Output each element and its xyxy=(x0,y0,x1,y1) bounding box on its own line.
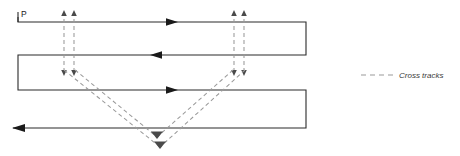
cross-track-diagonal-left-outer xyxy=(64,70,160,147)
main-track-path xyxy=(13,17,306,128)
main-track-group xyxy=(13,17,306,128)
legend-cross-track-label: Cross tracks xyxy=(399,71,443,80)
start-point-label: P xyxy=(21,9,27,19)
direction-arrow-right-top xyxy=(166,18,178,26)
cross-arrow-vertex-upper xyxy=(151,132,163,140)
legend: Cross tracks xyxy=(361,71,443,80)
cross-arrow-up-left-a xyxy=(61,10,67,16)
main-track-direction-arrows xyxy=(12,18,178,132)
cross-arrow-up-right-a xyxy=(231,10,237,16)
cross-tracks-vertical-right xyxy=(231,10,247,76)
cross-tracks-vertical-left xyxy=(61,10,77,76)
cross-arrow-up-right-b xyxy=(241,10,247,16)
cross-track-diagonal-right-outer xyxy=(160,70,245,147)
direction-arrow-right-third xyxy=(166,86,178,94)
direction-arrow-left-second xyxy=(150,51,162,59)
diagram-canvas: P xyxy=(0,0,460,156)
cross-arrow-vertex-lower xyxy=(154,142,166,150)
cross-track-diagonal-right-inner xyxy=(157,70,233,137)
cross-track-diagonal-left-inner xyxy=(75,70,157,137)
survey-track-diagram: P xyxy=(0,0,460,156)
direction-arrow-left-bottom xyxy=(12,124,25,132)
cross-arrow-up-left-b xyxy=(71,10,77,16)
start-point-marker-group: P xyxy=(18,9,27,22)
cross-tracks-diagonal xyxy=(64,70,245,149)
